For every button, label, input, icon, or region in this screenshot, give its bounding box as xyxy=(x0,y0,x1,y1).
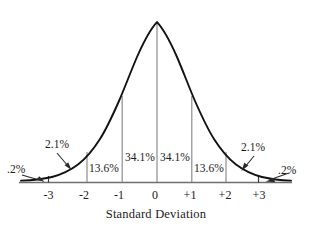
label-pct-right-2-1: 2.1% xyxy=(241,142,265,154)
x-axis-title: Standard Deviation xyxy=(106,208,206,221)
x-tick-label-plus1: +1 xyxy=(184,189,197,201)
bell-curve-path xyxy=(21,22,291,180)
label-pct-left-tail: .2% xyxy=(7,164,25,176)
normal-distribution-figure: .2% 2.1% 13.6% 34.1% 34.1% 13.6% 2.1% .2… xyxy=(0,0,312,232)
x-tick-label-minus2: -2 xyxy=(79,189,89,201)
x-tick-label-zero: 0 xyxy=(152,189,158,201)
label-pct-left-13-6: 13.6% xyxy=(89,163,119,175)
label-pct-left-34-1: 34.1% xyxy=(125,152,155,164)
label-pct-right-34-1: 34.1% xyxy=(160,152,190,164)
x-tick-label-minus3: -3 xyxy=(44,189,54,201)
x-tick-label-plus2: +2 xyxy=(219,189,232,201)
x-tick-label-plus3: +3 xyxy=(253,189,266,201)
label-pct-right-13-6: 13.6% xyxy=(194,163,224,175)
label-pct-right-tail: .2% xyxy=(278,165,296,177)
label-pct-left-2-1: 2.1% xyxy=(45,139,69,151)
x-tick-label-minus1: -1 xyxy=(114,189,124,201)
